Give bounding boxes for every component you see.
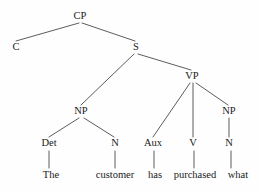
syntax-tree-figure: CPCSNPVPDetNAuxVNPNThecustomerhaspurchas… [0, 0, 260, 192]
tree-edge-cp-c [16, 23, 79, 41]
tree-node-n2: N [225, 137, 233, 148]
terminal-word-the: The [43, 169, 60, 180]
syntax-tree-canvas: CPCSNPVPDetNAuxVNPNThecustomerhaspurchas… [0, 0, 260, 192]
tree-node-n1: N [111, 137, 119, 148]
tree-node-aux: Aux [144, 137, 163, 148]
tree-edge-vp-np2 [196, 83, 228, 105]
tree-edge-np1-det [49, 118, 79, 137]
tree-node-det: Det [41, 137, 56, 148]
tree-edge-vp-aux [153, 83, 190, 137]
terminal-word-has: has [148, 169, 162, 180]
tree-node-cp: CP [74, 10, 87, 21]
tree-node-c: C [12, 41, 19, 52]
tree-edge-s-vp [138, 54, 191, 70]
tree-node-s: S [133, 41, 139, 52]
terminal-word-what: what [228, 169, 248, 180]
tree-node-np2: NP [222, 105, 236, 116]
tree-edge-cp-s [82, 23, 135, 41]
tree-node-v: V [189, 137, 197, 148]
tree-edge-np1-n1 [84, 118, 114, 137]
tree-node-np1: NP [74, 105, 88, 116]
terminal-word-customer: customer [96, 169, 135, 180]
tree-node-vp: VP [185, 70, 199, 81]
terminal-word-purchased: purchased [174, 169, 217, 180]
tree-edge-s-np1 [81, 54, 134, 105]
